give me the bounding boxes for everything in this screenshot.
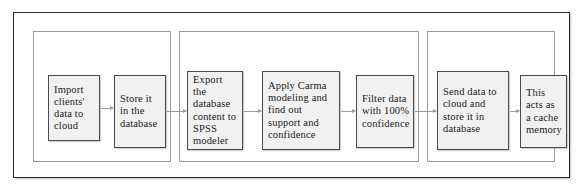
process-node-label: Store it in the database — [120, 93, 157, 130]
flow-arrow-icon-2 — [167, 111, 186, 112]
diagram-canvas: Import clients' data to cloud Store it i… — [0, 0, 584, 195]
flow-arrow-icon-3 — [244, 111, 261, 112]
process-node-import-clients-data[interactable]: Import clients' data to cloud — [48, 75, 100, 141]
process-node-label: Send data to cloud and store it in datab… — [443, 86, 497, 135]
process-node-label: Filter data with 100% confidence — [362, 93, 410, 130]
flow-arrow-icon-1 — [101, 108, 113, 109]
flow-arrow-icon-4 — [341, 111, 355, 112]
process-node-label: Apply Carma modeling and find out suppor… — [268, 80, 327, 141]
process-node-filter-data[interactable]: Filter data with 100% confidence — [356, 75, 414, 148]
flow-arrow-icon-6 — [510, 111, 519, 112]
process-node-store-in-database[interactable]: Store it in the database — [114, 75, 166, 148]
process-node-label: This acts as a cache memory — [526, 87, 562, 136]
process-node-label: Export the database content to SPSS mode… — [193, 74, 237, 147]
flow-arrow-icon-5 — [415, 111, 436, 112]
process-node-send-data-to-cloud[interactable]: Send data to cloud and store it in datab… — [437, 71, 509, 150]
process-node-label: Import clients' data to cloud — [54, 84, 85, 133]
diagram-outer-frame: Import clients' data to cloud Store it i… — [13, 12, 570, 178]
process-node-cache-memory[interactable]: This acts as a cache memory — [520, 75, 567, 148]
process-node-apply-carma-modeling[interactable]: Apply Carma modeling and find out suppor… — [262, 71, 340, 150]
process-node-export-to-spss[interactable]: Export the database content to SPSS mode… — [187, 71, 243, 150]
